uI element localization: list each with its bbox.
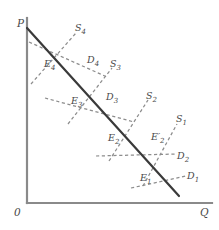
demand-curve-label-d1: D1 <box>187 171 199 184</box>
supply-label-sub-s3: 3 <box>117 64 121 72</box>
equilibrium-label-e2: E2 <box>108 133 119 146</box>
equilibrium-label-e2-prime: E′2 <box>151 132 165 145</box>
demand-curve-d2 <box>96 154 176 156</box>
equilibrium-text-e4: E <box>44 58 51 69</box>
equilibrium-sub-e2-prime: 2 <box>160 137 164 145</box>
supply-curve-label-s2: S2 <box>146 91 157 104</box>
long-run-market-line <box>27 28 179 196</box>
demand-label-sub-d1: 1 <box>195 176 199 184</box>
supply-label-sub-s4: 4 <box>82 28 86 36</box>
supply-curve-label-s1: S1 <box>176 114 187 127</box>
supply-curve-label-s4: S4 <box>75 23 86 36</box>
demand-curve-label-d4: D4 <box>87 55 99 68</box>
equilibrium-text-e2-prime: E <box>151 131 158 142</box>
demand-curve-d3 <box>45 98 134 122</box>
equilibrium-label-e4: E4 <box>44 59 55 72</box>
equilibrium-text-e2: E <box>108 132 115 143</box>
demand-label-text-d4: D <box>87 54 95 65</box>
equilibrium-label-e3: E3 <box>71 96 82 109</box>
supply-curve-label-s3: S3 <box>110 59 121 72</box>
demand-label-sub-d4: 4 <box>95 60 99 68</box>
supply-label-sub-s1: 1 <box>183 119 187 127</box>
supply-label-sub-s2: 2 <box>153 96 157 104</box>
x-axis-label: Q <box>200 207 209 218</box>
equilibrium-text-e3: E <box>71 95 78 106</box>
demand-curve-label-d2: D2 <box>177 151 189 164</box>
demand-label-text-d1: D <box>187 170 195 181</box>
y-axis-label: P <box>17 18 24 29</box>
demand-label-text-d2: D <box>177 150 185 161</box>
market-line-group <box>27 28 179 196</box>
axes-group <box>27 18 212 203</box>
origin-label: 0 <box>14 207 21 218</box>
demand-label-sub-d2: 2 <box>185 156 189 164</box>
equilibrium-sub-e1: 1 <box>147 178 151 186</box>
equilibrium-label-e1: E1 <box>140 173 151 186</box>
demand-curve-label-d3: D3 <box>106 92 118 105</box>
demand-label-text-d3: D <box>106 91 114 102</box>
equilibrium-sub-e2: 2 <box>115 138 119 146</box>
equilibrium-sub-e4: 4 <box>51 64 55 72</box>
equilibrium-sub-e3: 3 <box>78 101 82 109</box>
equilibrium-text-e1: E <box>140 172 147 183</box>
demand-label-sub-d3: 3 <box>114 97 118 105</box>
supply-demand-figure: P Q 0 S4 S3 S2 S1 D4 D3 D2 D1 E4 E3 E2 E… <box>0 0 219 230</box>
supply-curve-s2 <box>109 100 148 161</box>
